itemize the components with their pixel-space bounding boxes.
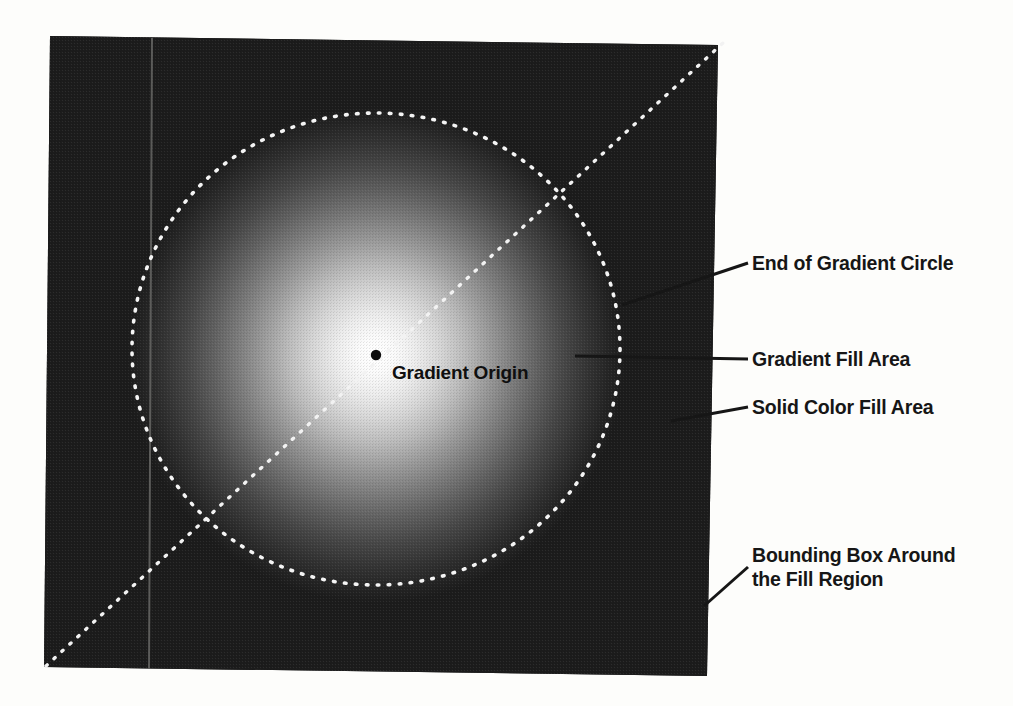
leader-bounding-box	[704, 567, 748, 606]
callout-label-end-of-gradient-circle: End of Gradient Circle	[752, 251, 953, 275]
figure-canvas: End of Gradient Circle Gradient Fill Are…	[0, 0, 1013, 706]
callout-label-solid-color-fill-area: Solid Color Fill Area	[752, 395, 933, 419]
callout-label-bounding-box: Bounding Box Around the Fill Region	[752, 543, 955, 591]
gradient-origin-dot	[371, 350, 381, 360]
callout-label-gradient-origin: Gradient Origin	[392, 362, 528, 384]
callout-label-gradient-fill-area: Gradient Fill Area	[752, 347, 910, 371]
